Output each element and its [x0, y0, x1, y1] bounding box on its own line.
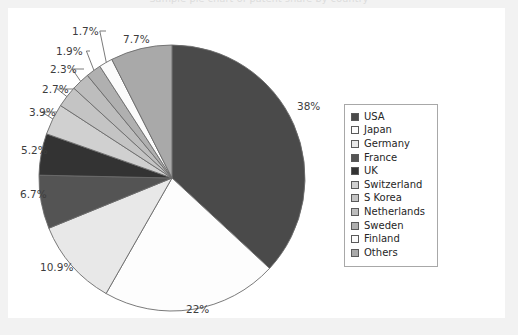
legend-item[interactable]: Japan [351, 124, 431, 138]
legend-swatch-icon [351, 167, 359, 175]
legend-item-label: Sweden [364, 221, 404, 231]
chart-legend: USAJapanGermanyFranceUKSwitzerlandS Kore… [344, 104, 438, 267]
legend-item-label: UK [364, 166, 378, 176]
legend-item[interactable]: Finland [351, 232, 431, 246]
legend-item-label: Germany [364, 139, 410, 149]
legend-swatch-icon [351, 194, 359, 202]
legend-item[interactable]: Germany [351, 137, 431, 151]
legend-item-label: Others [364, 248, 398, 258]
legend-item-label: Netherlands [364, 207, 425, 217]
label-leader-line [86, 51, 94, 72]
legend-swatch-icon [351, 126, 359, 134]
legend-item[interactable]: S Korea [351, 192, 431, 206]
legend-item-label: USA [364, 112, 385, 122]
legend-swatch-icon [351, 140, 359, 148]
pie-slice-percent-label: 2.3% [50, 63, 77, 75]
legend-item[interactable]: Switzerland [351, 178, 431, 192]
chart-title: Sample pie chart of patent share by coun… [0, 0, 518, 4]
pie-slice-percent-label: 1.9% [56, 45, 83, 57]
legend-swatch-icon [351, 208, 359, 216]
legend-swatch-icon [351, 154, 359, 162]
legend-item-label: S Korea [364, 193, 402, 203]
legend-item-label: Switzerland [364, 180, 422, 190]
legend-item-label: Finland [364, 234, 400, 244]
legend-swatch-icon [351, 181, 359, 189]
legend-swatch-icon [351, 249, 359, 257]
pie-slice-percent-label: 1.7% [72, 25, 99, 37]
legend-item[interactable]: Others [351, 246, 431, 260]
legend-item-label: Japan [364, 125, 392, 135]
legend-item[interactable]: UK [351, 164, 431, 178]
plot-area: 38%22%10.9%6.7%5.2%3.9%2.7%2.3%1.9%1.7%7… [8, 8, 505, 318]
legend-swatch-icon [351, 113, 359, 121]
label-leader-line [100, 31, 107, 64]
pie-slice-percent-label: 22% [186, 303, 209, 315]
legend-item[interactable]: Sweden [351, 219, 431, 233]
legend-swatch-icon [351, 235, 359, 243]
pie-slice-percent-label: 10.9% [40, 261, 73, 273]
legend-item-label: France [364, 153, 397, 163]
pie-slice-percent-label: 6.7% [20, 188, 47, 200]
pie-slice-percent-label: 5.2% [21, 144, 48, 156]
legend-item[interactable]: France [351, 151, 431, 165]
legend-item[interactable]: USA [351, 110, 431, 124]
legend-swatch-icon [351, 222, 359, 230]
chart-page: 38%22%10.9%6.7%5.2%3.9%2.7%2.3%1.9%1.7%7… [0, 0, 518, 335]
pie-slice-percent-label: 7.7% [123, 33, 150, 45]
legend-item[interactable]: Netherlands [351, 205, 431, 219]
pie-slice-percent-label: 2.7% [42, 83, 69, 95]
pie-slice-percent-label: 38% [297, 100, 320, 112]
pie-slices-group [39, 45, 305, 311]
pie-slice-percent-label: 3.9% [29, 106, 56, 118]
